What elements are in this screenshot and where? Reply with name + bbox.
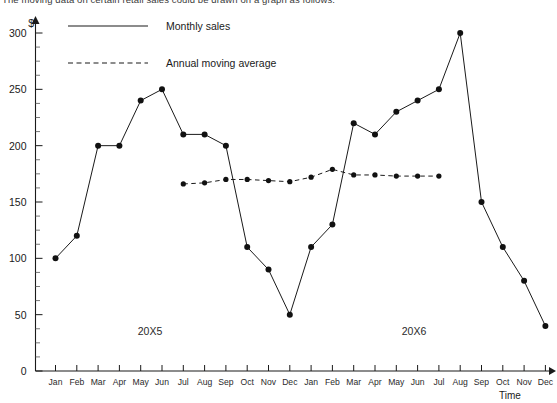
x-tick-label: Jun <box>155 377 169 387</box>
y-tick-label: 150 <box>9 196 27 208</box>
data-point <box>309 175 314 180</box>
data-point <box>308 244 314 250</box>
x-tick-label: Oct <box>241 377 255 387</box>
y-axis-unit-label: $ <box>28 17 34 29</box>
data-point <box>457 30 463 36</box>
y-tick-label: 300 <box>9 27 27 39</box>
data-point <box>159 86 165 92</box>
axes-group <box>32 16 557 375</box>
data-point <box>202 131 208 137</box>
x-tick-label: Nov <box>261 377 277 387</box>
x-tick-label: Feb <box>325 377 340 387</box>
data-point <box>521 278 527 284</box>
data-point <box>138 98 144 104</box>
legend-label-annual-moving-average: Annual moving average <box>166 57 276 69</box>
data-point <box>330 167 335 172</box>
data-point <box>415 173 420 178</box>
legend-group: Monthly sales Annual moving average <box>68 20 276 69</box>
series-group <box>53 30 549 329</box>
x-tick-label: Dec <box>538 377 554 387</box>
data-point <box>223 177 228 182</box>
x-tick-label: Feb <box>69 377 84 387</box>
data-point <box>53 255 59 261</box>
data-point <box>351 120 357 126</box>
y-ticks-group <box>36 33 43 371</box>
data-point <box>266 178 271 183</box>
y-tick-label: 100 <box>9 252 27 264</box>
data-point <box>393 109 399 115</box>
x-tick-label: May <box>388 377 405 387</box>
x-tick-label: Apr <box>113 377 127 387</box>
data-point <box>415 98 421 104</box>
data-point <box>436 86 442 92</box>
data-point <box>542 323 548 329</box>
x-tick-label: Jul <box>178 377 189 387</box>
data-point <box>394 173 399 178</box>
y-tick-label: 200 <box>9 140 27 152</box>
x-tick-label: May <box>133 377 150 387</box>
year-labels-group: 20X5 20X6 <box>138 325 427 337</box>
x-tick-label: Jun <box>411 377 425 387</box>
data-point <box>180 131 186 137</box>
y-tick-label: 0 <box>21 365 27 377</box>
x-tick-label: Jan <box>49 377 63 387</box>
data-point <box>351 172 356 177</box>
series-line-monthly-sales <box>56 33 546 326</box>
year-label-first: 20X5 <box>138 325 163 337</box>
x-tick-label: Jan <box>304 377 318 387</box>
data-point <box>287 312 293 318</box>
data-point <box>500 244 506 250</box>
data-point <box>479 199 485 205</box>
year-label-second: 20X6 <box>402 325 427 337</box>
data-point <box>223 143 229 149</box>
x-tick-label: Aug <box>197 377 213 387</box>
x-axis-arrow <box>549 367 556 375</box>
y-tick-labels-group: 050100150200250300 <box>9 27 27 377</box>
x-tick-label: Apr <box>368 377 382 387</box>
x-tick-label: Sep <box>474 377 490 387</box>
x-tick-label: Dec <box>282 377 298 387</box>
data-point <box>181 181 186 186</box>
data-point <box>244 244 250 250</box>
chart-svg: 050100150200250300 $ JanFebMarAprMayJunJ… <box>0 0 557 403</box>
x-tick-labels-group: JanFebMarAprMayJunJulAugSepOctNovDecJanF… <box>49 377 554 387</box>
data-point <box>95 143 101 149</box>
x-tick-label: Sep <box>218 377 234 387</box>
x-ticks-group <box>56 365 546 371</box>
x-tick-label: Mar <box>346 377 361 387</box>
x-tick-label: Jul <box>433 377 444 387</box>
x-axis-title: Time <box>499 390 521 401</box>
data-point <box>202 180 207 185</box>
x-tick-label: Nov <box>516 377 532 387</box>
legend-label-monthly-sales: Monthly sales <box>166 20 230 32</box>
data-point <box>287 179 292 184</box>
data-point <box>116 143 122 149</box>
y-tick-label: 50 <box>15 309 27 321</box>
data-point <box>372 172 377 177</box>
sales-line-chart: 050100150200250300 $ JanFebMarAprMayJunJ… <box>0 0 557 403</box>
x-tick-label: Oct <box>496 377 510 387</box>
data-point <box>436 173 441 178</box>
y-tick-label: 250 <box>9 83 27 95</box>
x-tick-label: Aug <box>453 377 469 387</box>
data-point <box>372 131 378 137</box>
x-tick-label: Mar <box>91 377 106 387</box>
data-point <box>266 267 272 273</box>
data-point <box>245 177 250 182</box>
data-point <box>329 222 335 228</box>
data-point <box>74 233 80 239</box>
